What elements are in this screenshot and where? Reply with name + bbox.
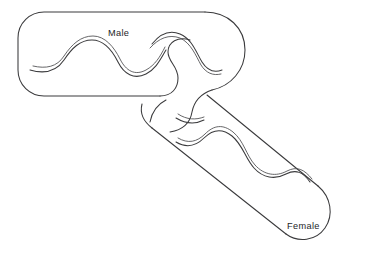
neck-inner-fold [150,100,166,122]
female-label: Female [287,221,320,231]
male-flagellum-outer-wave [30,40,166,76]
female-capsule-outline [141,95,330,240]
neck-right-edge [170,90,212,132]
female-flagellum-inner-wave [178,127,312,179]
male-capsule-right-cap [205,12,245,90]
male-capsule-outline [18,12,245,96]
female-capsule-lower-right-cap [286,186,330,240]
female-flagellum-outer-wave [176,131,310,182]
male-label: Male [108,28,129,38]
female-capsule-upper-right-edge [207,95,318,186]
female-capsule-upper-left-edge [141,104,152,128]
line-drawing-canvas: Male Female [0,0,365,261]
figure-root: Male Female [0,0,365,261]
female-flagellum [176,114,312,182]
conjugation-neck [150,39,212,132]
male-flagellum [30,32,222,76]
